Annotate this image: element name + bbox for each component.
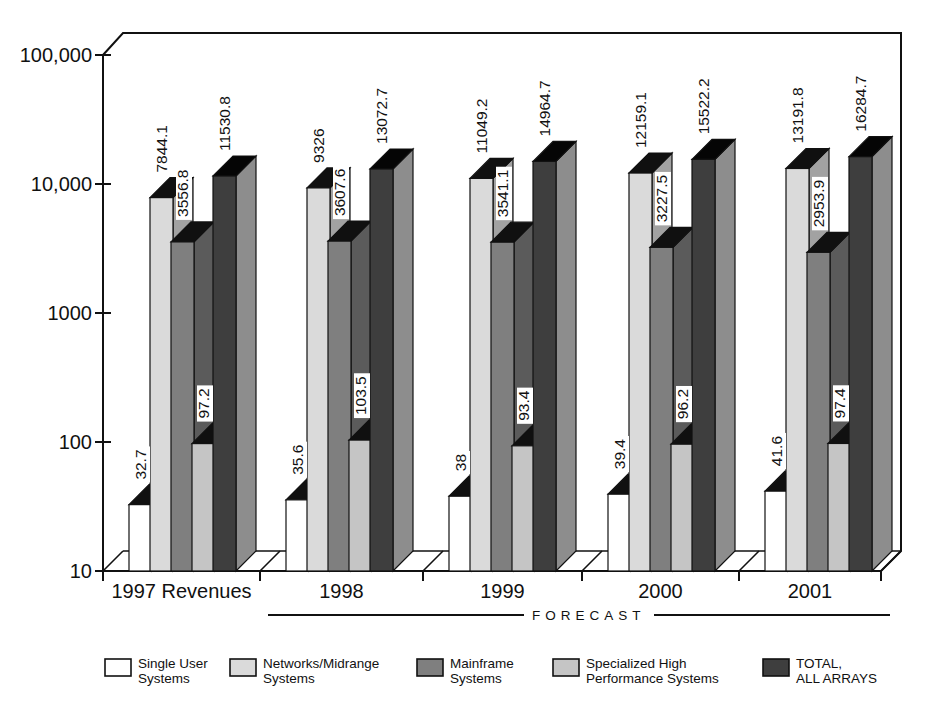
legend-label: Networks/Midrange — [263, 656, 379, 671]
bar-front — [328, 241, 351, 571]
bar-group-1998: 35.693263607.6103.513072.7 — [286, 85, 413, 571]
bar-value-label-group: 11530.8 — [216, 92, 234, 154]
bar-value-label: 32.7 — [132, 449, 149, 479]
bar-value-label: 9326 — [310, 128, 327, 162]
bar-front — [129, 505, 152, 571]
bar-front — [349, 440, 372, 571]
bar-value-label-group: 97.4 — [831, 385, 849, 421]
bar-value-label: 39.4 — [611, 439, 628, 470]
bar-front — [692, 159, 715, 571]
bar-value-label-group: 12159.1 — [632, 89, 650, 151]
y-axis-tick-label: 100 — [59, 431, 92, 453]
legend-label: Mainframe — [450, 656, 514, 671]
bar-side — [393, 149, 413, 571]
bar-value-label-group: 103.5 — [352, 373, 370, 418]
legend-label: Performance Systems — [586, 671, 719, 686]
bar-value-label-group: 32.7 — [132, 446, 150, 482]
legend-label: Single User — [138, 656, 208, 671]
x-axis-label: 1997 Revenues — [111, 580, 251, 602]
legend-label: Specialized High — [586, 656, 687, 671]
bar-front — [512, 446, 535, 571]
legend-swatch — [553, 659, 579, 676]
floor-diagonal — [260, 551, 280, 571]
y-axis-tick-label: 1000 — [48, 302, 93, 324]
bar-value-label-group: 15522.2 — [695, 75, 713, 137]
bar-value-label: 3556.8 — [174, 169, 191, 216]
floor-diagonal — [739, 551, 759, 571]
legend-label: ALL ARRAYS — [796, 671, 877, 686]
bar-value-label-group: 13191.8 — [789, 84, 807, 146]
x-axis-label: 1998 — [319, 580, 364, 602]
bar-value-label: 38 — [452, 454, 469, 471]
bar-value-label-group: 35.6 — [289, 442, 307, 478]
legend-item: Specialized HighPerformance Systems — [553, 656, 719, 686]
bar-value-label-group: 3556.8 — [174, 166, 192, 219]
bar-front — [150, 198, 173, 571]
bar-front — [213, 176, 236, 571]
bar-value-label-group: 41.6 — [768, 433, 786, 469]
bar-group-1997: 32.77844.13556.897.211530.8 — [129, 92, 256, 571]
bar-front — [608, 494, 631, 571]
legend-swatch — [105, 659, 131, 676]
bar-front — [449, 496, 472, 571]
legend-item: Single UserSystems — [105, 656, 208, 686]
bar-side — [715, 139, 735, 571]
legend-swatch — [763, 659, 789, 676]
bar-value-label: 15522.2 — [695, 78, 712, 134]
bar-group-2001: 41.613191.82953.997.416284.7 — [765, 73, 892, 571]
bar-value-label-group: 96.2 — [674, 386, 692, 422]
bar-value-label-group: 3541.1 — [494, 167, 512, 220]
bar-value-label: 41.6 — [768, 436, 785, 466]
forecast-label: FORECAST — [532, 608, 646, 623]
bar-value-label-group: 11049.2 — [473, 94, 491, 156]
x-axis-label: 2000 — [638, 580, 683, 602]
x-axis-label: 2001 — [788, 580, 833, 602]
bar-value-label: 11530.8 — [216, 96, 233, 151]
bar-value-label: 96.2 — [674, 389, 691, 419]
bar-front — [786, 168, 809, 571]
bar-value-label-group: 16284.7 — [852, 73, 870, 135]
bar-front — [533, 161, 556, 571]
legend: Single UserSystemsNetworks/MidrangeSyste… — [105, 656, 877, 686]
floor-diagonal — [582, 551, 602, 571]
bar-side — [236, 156, 256, 571]
bar-front — [650, 247, 673, 571]
legend-label: TOTAL, — [796, 656, 842, 671]
bar-value-label-group: 93.4 — [515, 388, 533, 424]
bar-value-label: 97.2 — [195, 388, 212, 418]
legend-label: Systems — [263, 671, 315, 686]
bar-side — [872, 137, 892, 571]
legend-item: TOTAL,ALL ARRAYS — [763, 656, 877, 686]
bar-front — [765, 491, 788, 571]
bar-front — [192, 444, 215, 571]
bar-front — [370, 169, 393, 571]
bar-value-label: 12159.1 — [632, 92, 649, 148]
legend-swatch — [230, 659, 256, 676]
bar-value-label: 97.4 — [831, 388, 848, 419]
legend-item: MainframeSystems — [417, 656, 514, 686]
bar-value-label: 3607.6 — [331, 169, 348, 216]
bar-value-label-group: 9326 — [310, 125, 328, 165]
bar-value-label: 103.5 — [352, 376, 369, 415]
x-axis-label: 1999 — [480, 580, 525, 602]
bar-value-label-group: 97.2 — [195, 385, 213, 421]
bar-side — [556, 141, 576, 571]
bar-front — [491, 242, 514, 571]
y-axis-tick-label: 10 — [70, 560, 92, 582]
legend-item: Networks/MidrangeSystems — [230, 656, 379, 686]
bar-value-label: 93.4 — [515, 390, 532, 421]
bar-value-label: 16284.7 — [852, 76, 869, 132]
bar-value-label-group: 13072.7 — [373, 85, 391, 147]
y-axis-tick-label: 100,000 — [20, 44, 92, 66]
bar-value-label: 13072.7 — [373, 88, 390, 144]
bar-value-label-group: 2953.9 — [810, 177, 828, 230]
bar-front — [286, 500, 309, 571]
bar-value-label: 13191.8 — [789, 87, 806, 143]
bar-value-label-group: 38 — [452, 451, 470, 474]
bar-front — [171, 242, 194, 571]
bar-value-label: 3541.1 — [494, 170, 511, 217]
legend-swatch — [417, 659, 443, 676]
bar-value-label-group: 3227.5 — [653, 172, 671, 225]
bar-value-label: 7844.1 — [153, 125, 170, 172]
bar-front — [470, 178, 493, 571]
